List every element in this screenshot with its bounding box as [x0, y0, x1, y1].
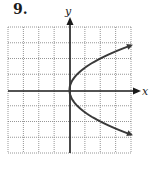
y-axis-arrow-icon	[67, 17, 74, 25]
x-axis-arrow-icon	[133, 88, 141, 95]
graph: x y	[0, 0, 151, 169]
parabola-curve	[70, 44, 133, 136]
y-axis-label: y	[64, 5, 72, 18]
x-axis-label: x	[142, 85, 149, 98]
